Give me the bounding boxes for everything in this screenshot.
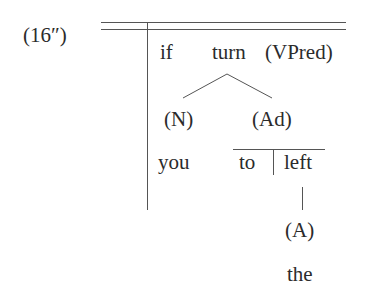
label-ad: (Ad) <box>252 109 292 130</box>
word-left: left <box>284 152 312 173</box>
word-the: the <box>287 264 313 285</box>
adjunct-divider <box>273 149 274 175</box>
label-n: (N) <box>164 109 193 130</box>
left-modifier-line <box>302 187 303 210</box>
word-you: you <box>158 152 190 173</box>
label-a: (A) <box>285 220 314 241</box>
word-to: to <box>239 152 255 173</box>
